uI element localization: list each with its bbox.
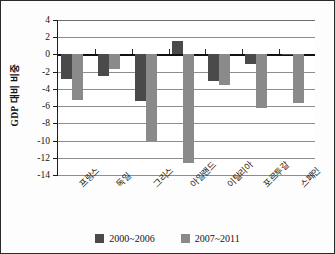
y-tick-label: 0	[45, 49, 50, 59]
bar-group	[279, 20, 316, 175]
bar-group	[242, 20, 279, 175]
y-tick-label: -6	[42, 101, 50, 111]
chart-figure: GDP 대비 비중 420-2-4-6-8-10-12-14 프랑스독일그리스아…	[0, 0, 335, 254]
plot-area: 420-2-4-6-8-10-12-14	[57, 20, 315, 175]
y-tick-label: -10	[37, 136, 50, 146]
legend-swatch-icon	[95, 234, 104, 243]
y-tick-label: -14	[37, 170, 50, 180]
y-tick-label: -2	[42, 67, 50, 77]
bar-group	[169, 20, 206, 175]
bar	[61, 54, 72, 78]
legend-item: 2007~2011	[181, 233, 240, 244]
bar-group	[132, 20, 169, 175]
legend-label: 2000~2006	[109, 233, 154, 244]
bar	[245, 54, 256, 63]
bar	[72, 54, 83, 100]
legend-swatch-icon	[181, 234, 190, 243]
bar	[208, 54, 219, 81]
y-axis-title-text: GDP 대비 비중	[7, 64, 21, 127]
bar	[146, 54, 157, 140]
chart-legend: 2000~20062007~2011	[1, 233, 334, 244]
legend-item: 2000~2006	[95, 233, 154, 244]
bar-group	[95, 20, 132, 175]
bar-group	[58, 20, 95, 175]
legend-label: 2007~2011	[195, 233, 240, 244]
bar	[256, 54, 267, 107]
y-axis-title: GDP 대비 비중	[7, 35, 21, 155]
bar	[109, 54, 120, 69]
bar-group	[205, 20, 242, 175]
y-tick-label: 2	[45, 32, 50, 42]
y-tick-label: -4	[42, 84, 50, 94]
y-tick-label: -8	[42, 118, 50, 128]
bar	[135, 54, 146, 101]
bar	[172, 41, 183, 55]
bar	[183, 54, 194, 163]
bar	[293, 54, 304, 102]
bar	[98, 54, 109, 76]
bar	[219, 54, 230, 84]
y-tick-label: 4	[45, 15, 50, 25]
y-tick--14	[53, 175, 58, 176]
y-tick-label: -12	[37, 153, 50, 163]
